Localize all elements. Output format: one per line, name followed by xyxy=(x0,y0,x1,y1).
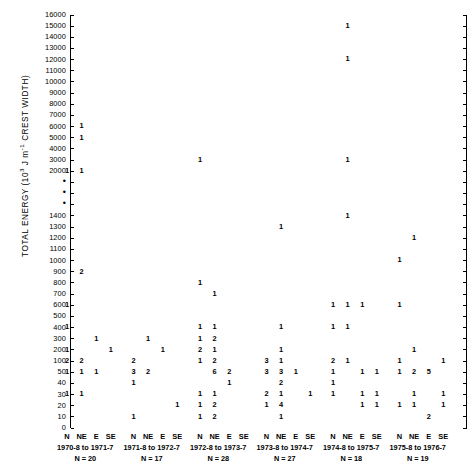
y-axis-tick-label: 40 xyxy=(22,379,66,386)
y-axis-tick-label: 5000 xyxy=(22,134,66,141)
data-point-count: 1 xyxy=(210,390,220,397)
x-axis-direction-label-ne: NE xyxy=(273,433,289,441)
x-axis-direction-label-ne: NE xyxy=(406,433,422,441)
y-axis-tick-right xyxy=(463,338,467,339)
x-axis-direction-label-e: E xyxy=(221,433,237,441)
y-axis-tick-label: 600 xyxy=(22,301,66,308)
y-axis-tick-right xyxy=(463,59,467,60)
y-axis-tick-label: 1400 xyxy=(22,212,66,219)
data-point-count: 1 xyxy=(262,401,272,408)
y-axis-tick-right xyxy=(463,227,467,228)
y-axis-tick xyxy=(71,249,75,250)
data-point-count: 1 xyxy=(438,357,448,364)
y-axis-tick xyxy=(71,405,75,406)
x-axis-sample-size-label: N = 27 xyxy=(253,455,318,463)
y-axis-tick-right xyxy=(463,48,467,49)
y-axis-tick xyxy=(71,238,75,239)
y-axis-tick-right xyxy=(463,260,467,261)
y-axis-tick xyxy=(71,148,75,149)
x-axis-direction-label-n: N xyxy=(392,433,408,441)
y-axis-tick-right xyxy=(463,238,467,239)
x-axis-direction-label-n: N xyxy=(259,433,275,441)
y-axis-tick xyxy=(71,204,75,205)
y-axis-tick-right xyxy=(463,361,467,362)
y-axis-tick-label: 4000 xyxy=(22,145,66,152)
y-axis-tick-right xyxy=(463,327,467,328)
y-axis-tick-label: 9000 xyxy=(22,89,66,96)
data-point-count: 2 xyxy=(328,357,338,364)
data-point-count: 1 xyxy=(62,323,72,330)
data-point-count: 6 xyxy=(210,368,220,375)
data-point-count: 1 xyxy=(438,390,448,397)
data-point-count: 1 xyxy=(372,401,382,408)
data-point-count: 1 xyxy=(395,301,405,308)
x-axis-direction-label-e: E xyxy=(421,433,437,441)
y-axis-tick-right xyxy=(463,70,467,71)
y-axis-tick-label: 14000 xyxy=(22,33,66,40)
data-point-count: 1 xyxy=(291,368,301,375)
data-point-count: 1 xyxy=(343,156,353,163)
y-axis-tick xyxy=(71,48,75,49)
data-point-count: 1 xyxy=(409,346,419,353)
x-axis-direction-label-se: SE xyxy=(103,433,119,441)
data-point-count: 1 xyxy=(91,368,101,375)
y-axis-tick-right xyxy=(463,305,467,306)
x-axis-direction-label-n: N xyxy=(59,433,75,441)
x-axis-direction-label-ne: NE xyxy=(74,433,90,441)
y-axis-tick xyxy=(71,137,75,138)
y-axis-tick-right xyxy=(463,104,467,105)
y-axis-tick-right xyxy=(463,193,467,194)
y-axis-tick-right xyxy=(463,394,467,395)
x-axis-direction-label-se: SE xyxy=(302,433,318,441)
y-axis-tick xyxy=(71,115,75,116)
x-axis-direction-label-e: E xyxy=(88,433,104,441)
y-axis-tick xyxy=(71,416,75,417)
data-point-count: 1 xyxy=(328,323,338,330)
data-point-count: 1 xyxy=(195,390,205,397)
x-axis-direction-label-e: E xyxy=(288,433,304,441)
y-axis-tick xyxy=(71,428,75,429)
y-axis-tick-right xyxy=(463,405,467,406)
data-point-count: 2 xyxy=(77,357,87,364)
y-axis-tick-label: 500 xyxy=(22,312,66,319)
y-axis-tick-label: 300 xyxy=(22,335,66,342)
data-point-count: 1 xyxy=(106,346,116,353)
x-axis-direction-label-se: SE xyxy=(435,433,451,441)
data-point-count: 1 xyxy=(143,335,153,342)
data-point-count: 2 xyxy=(276,379,286,386)
data-point-count: 2 xyxy=(77,268,87,275)
y-axis-tick-label: 900 xyxy=(22,268,66,275)
data-point-count: 1 xyxy=(195,357,205,364)
data-point-count: 3 xyxy=(262,357,272,364)
y-axis-break-dot: • xyxy=(22,200,66,207)
y-axis-tick-right xyxy=(463,372,467,373)
y-axis-tick-right xyxy=(463,182,467,183)
x-axis-sample-size-label: N = 20 xyxy=(53,455,118,463)
data-point-count: 1 xyxy=(224,379,234,386)
data-point-count: 2 xyxy=(424,413,434,420)
data-point-count: 1 xyxy=(357,301,367,308)
y-axis-tick-right xyxy=(463,37,467,38)
y-axis-tick-right xyxy=(463,15,467,16)
y-axis-tick-label: 800 xyxy=(22,279,66,286)
x-axis-direction-label-ne: NE xyxy=(207,433,223,441)
y-axis-tick-right xyxy=(463,249,467,250)
x-axis-direction-label-n: N xyxy=(126,433,142,441)
y-axis-tick-right xyxy=(463,126,467,127)
y-axis-tick-right xyxy=(463,115,467,116)
y-axis-tick xyxy=(71,160,75,161)
y-axis-tick-label: 50 xyxy=(22,368,66,375)
y-axis-tick-label: 700 xyxy=(22,290,66,297)
y-axis-tick-right xyxy=(463,294,467,295)
data-point-count: 1 xyxy=(195,401,205,408)
data-point-count: 1 xyxy=(77,167,87,174)
data-point-count: 1 xyxy=(276,223,286,230)
data-point-count: 1 xyxy=(195,156,205,163)
y-axis-tick xyxy=(71,271,75,272)
data-point-count: 1 xyxy=(343,55,353,62)
data-point-count: 1 xyxy=(343,212,353,219)
y-axis-tick-label: 13000 xyxy=(22,44,66,51)
data-point-count: 2 xyxy=(210,401,220,408)
y-axis-tick xyxy=(71,338,75,339)
data-point-count: 1 xyxy=(395,401,405,408)
